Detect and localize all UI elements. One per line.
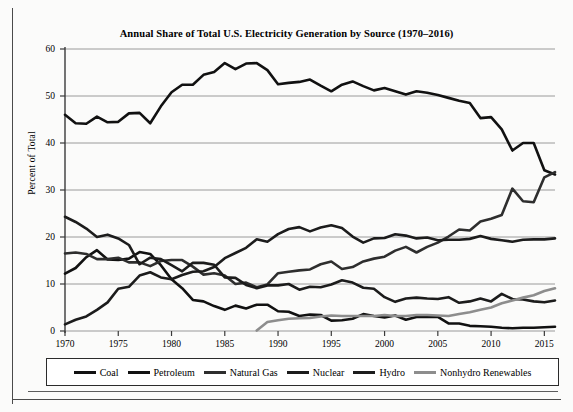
legend-item-label: Nuclear (313, 367, 345, 378)
series-line-natural-gas (65, 172, 555, 287)
legend-item-label: Petroleum (154, 367, 195, 378)
legend-item-petroleum[interactable]: Petroleum (128, 367, 195, 378)
series-line-coal (65, 63, 555, 174)
y-axis-title: Percent of Total (27, 103, 37, 223)
x-tick-label: 1985 (205, 339, 245, 349)
legend-item-label: Natural Gas (230, 367, 278, 378)
legend-item-label: Hydro (379, 367, 405, 378)
line-chart-svg (0, 0, 573, 412)
legend-swatch-icon (287, 371, 309, 374)
legend-item-coal[interactable]: Coal (74, 367, 119, 378)
series-line-hydro (65, 217, 555, 303)
y-tick-label: 20 (29, 232, 55, 242)
y-tick-label: 50 (29, 91, 55, 101)
legend-item-nonhydro-renewables[interactable]: Nonhydro Renewables (414, 367, 531, 378)
x-tick-label: 1980 (152, 339, 192, 349)
x-tick-label: 1975 (98, 339, 138, 349)
x-tick-label: 2015 (524, 339, 564, 349)
chart-legend: CoalPetroleumNatural GasNuclearHydroNonh… (46, 358, 559, 386)
y-tick-label: 10 (29, 279, 55, 289)
legend-swatch-icon (74, 371, 96, 374)
x-tick-label: 2005 (418, 339, 458, 349)
y-tick-label: 60 (29, 44, 55, 54)
legend-swatch-icon (128, 371, 150, 374)
x-tick-label: 1995 (311, 339, 351, 349)
legend-item-label: Nonhydro Renewables (440, 367, 531, 378)
x-tick-label: 2000 (365, 339, 405, 349)
x-tick-label: 2010 (471, 339, 511, 349)
y-tick-label: 40 (29, 138, 55, 148)
legend-swatch-icon (204, 371, 226, 374)
series-line-nonhydro-renewables (257, 288, 555, 330)
legend-swatch-icon (353, 371, 375, 374)
legend-item-label: Coal (100, 367, 119, 378)
legend-item-hydro[interactable]: Hydro (353, 367, 405, 378)
y-tick-label: 30 (29, 185, 55, 195)
x-tick-label: 1970 (45, 339, 85, 349)
legend-item-natural-gas[interactable]: Natural Gas (204, 367, 278, 378)
legend-item-nuclear[interactable]: Nuclear (287, 367, 345, 378)
chart-plot-area: Percent of Total 01020304050601970197519… (0, 0, 573, 412)
legend-swatch-icon (414, 371, 436, 374)
y-tick-label: 0 (29, 326, 55, 336)
x-tick-label: 1990 (258, 339, 298, 349)
